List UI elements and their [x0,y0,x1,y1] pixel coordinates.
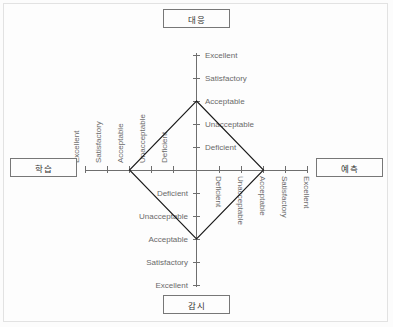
radar-diagram: Excellent Satisfactory Acceptable Unacce… [0,0,393,327]
node-box-bottom[interactable]: 감시 [163,295,230,314]
node-box-top[interactable]: 대응 [163,9,230,28]
node-box-left[interactable]: 학습 [10,158,77,177]
node-box-right[interactable]: 예측 [316,158,383,177]
